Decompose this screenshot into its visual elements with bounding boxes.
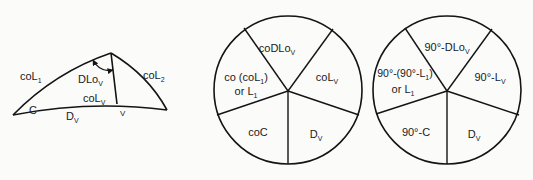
part-bottom-right: DV	[468, 128, 481, 142]
spoke	[447, 91, 519, 115]
label-col1: coL1	[20, 70, 42, 84]
part-top: 90°-DLoV	[424, 41, 469, 55]
napier-rules-diagram: coL1 coL2 DLoV coLV C DV V coDLoV coLV D…	[0, 0, 533, 180]
napier-circle-1: coDLoV coLV DV coC co (coL1) or L1	[214, 16, 362, 164]
label-c: C	[29, 104, 37, 116]
spoke	[288, 91, 359, 115]
part-left-line2: or L1	[235, 85, 258, 99]
spherical-triangle: coL1 coL2 DLoV coLV C DV V	[13, 53, 167, 124]
part-bottom-right: DV	[310, 128, 323, 142]
napier-circle-2: 90°-DLoV 90°-LV DV 90°-C 90°-(90°-L1) or…	[373, 16, 521, 164]
part-left-line1: 90°-(90°-L1)	[377, 67, 433, 81]
part-top: coDLoV	[259, 42, 296, 56]
label-dv: DV	[66, 110, 79, 124]
part-bottom-left: 90°-C	[402, 126, 430, 138]
label-colv: coLV	[83, 92, 106, 106]
angle-arc-dlov	[93, 60, 113, 71]
side-col2	[111, 53, 167, 110]
label-dlov: DLoV	[78, 73, 103, 87]
spoke	[405, 28, 447, 91]
part-bottom-left: coC	[248, 126, 268, 138]
part-left-line2: or L1	[392, 83, 415, 97]
part-right: coLV	[316, 71, 339, 85]
label-v: V	[120, 109, 126, 118]
part-right: 90°-LV	[474, 71, 505, 85]
label-col2: coL2	[143, 69, 165, 83]
part-left-line1: co (coL1)	[224, 71, 268, 85]
perpendicular-colv	[111, 53, 117, 104]
